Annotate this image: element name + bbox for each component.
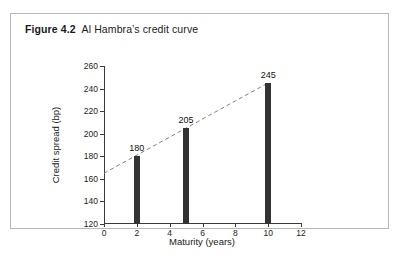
bar-value-label: 205 [179,116,194,125]
x-tick-label: 6 [200,229,205,238]
y-axis-label: Credit spread (bp) [50,107,61,184]
y-tick-label: 220 [84,107,98,116]
x-tick-label: 8 [233,229,238,238]
x-tick [301,223,302,227]
y-tick-label: 160 [84,175,98,184]
x-tick-label: 2 [134,229,139,238]
y-tick-label: 140 [84,197,98,206]
x-tick-label: 12 [296,229,305,238]
figure-caption-text: Al Hambra’s credit curve [82,23,199,35]
bar [265,83,271,224]
y-tick-label: 180 [84,152,98,161]
y-tick-label: 120 [84,220,98,229]
x-tick-label: 4 [167,229,172,238]
bar [183,128,189,224]
x-tick-label: 10 [263,229,272,238]
figure-frame: Figure 4.2Al Hambra’s credit curve Credi… [10,13,389,229]
plot-area: 120140160180200220240260 024681012 18020… [104,66,301,224]
bar [134,156,140,224]
bar-value-label: 180 [129,144,144,153]
x-tick-label: 0 [102,229,107,238]
bar-value-label: 245 [261,71,276,80]
figure-caption: Figure 4.2Al Hambra’s credit curve [25,23,198,35]
figure-caption-label: Figure 4.2 [25,23,76,35]
y-tick-label: 260 [84,62,98,71]
y-tick-label: 240 [84,84,98,93]
y-tick-label: 200 [84,129,98,138]
